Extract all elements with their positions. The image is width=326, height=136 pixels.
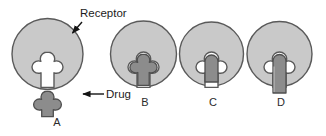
drug-receptor-diagram: Receptor Drug A B C D [0, 0, 326, 136]
panel-b [111, 21, 177, 87]
drug-callout-label: Drug [106, 88, 131, 101]
drug-molecule-d [273, 55, 286, 93]
panel-label-c: C [203, 96, 223, 108]
receptor-arrow-icon [73, 22, 83, 33]
panel-d [247, 22, 312, 94]
drug-molecule-a [34, 91, 62, 117]
receptor-circle [12, 19, 83, 90]
receptor-a [12, 19, 83, 90]
clover-molecule-icon [34, 91, 62, 117]
panel-label-d: D [271, 96, 291, 108]
panel-label-a: A [47, 116, 67, 128]
panel-c [180, 22, 244, 87]
drug-molecule-c [205, 55, 218, 82]
panel-a [12, 19, 83, 117]
panel-label-b: B [135, 96, 155, 108]
rounded-rect-molecule-icon [205, 55, 218, 82]
receptor-callout-label: Receptor [80, 7, 127, 20]
